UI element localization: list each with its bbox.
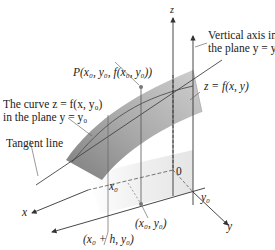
- surface-label: z = f(x, y): [204, 80, 249, 93]
- curve-label-1: The curve z = f(x, y₀): [3, 98, 102, 111]
- point-x0-y0: [139, 202, 143, 206]
- origin-label: 0: [176, 165, 182, 178]
- y-axis-label: y: [227, 220, 232, 233]
- partial-derivative-diagram: z Vertical axis in the plane y = y₀ P(x₀…: [0, 0, 275, 250]
- x-axis-label: x: [22, 206, 27, 219]
- point-h-label: (x₀ + h, y₀): [83, 233, 134, 246]
- point-base-label: (x₀, y₀): [135, 217, 167, 230]
- z-axis-label: z: [170, 3, 174, 16]
- point-P: [139, 85, 143, 89]
- vertical-axis-label-1: Vertical axis in: [208, 29, 275, 42]
- y0-label: y₀: [201, 191, 210, 204]
- curve-label-2: in the plane y = y₀: [3, 111, 87, 124]
- x-axis: [32, 190, 88, 213]
- tangent-line-label: Tangent line: [6, 137, 63, 150]
- y-axis: [193, 192, 228, 225]
- x0-label: x₀: [109, 180, 118, 193]
- point-P-label: P(x₀, y₀, f(x₀, y₀)): [73, 66, 152, 79]
- vertical-axis-label-2: the plane y = y₀: [208, 42, 275, 55]
